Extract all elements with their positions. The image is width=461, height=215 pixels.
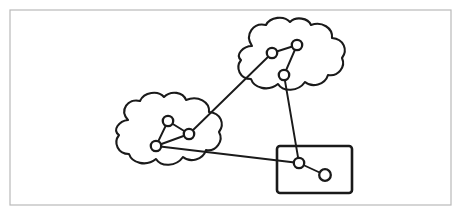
node-t3[interactable] (279, 70, 289, 80)
node-t2[interactable] (292, 40, 302, 50)
network-diagram (0, 0, 461, 215)
node-t1[interactable] (267, 48, 277, 58)
node-b2[interactable] (319, 169, 331, 181)
node-b1[interactable] (294, 158, 304, 168)
node-l1[interactable] (163, 116, 173, 126)
diagram-canvas (0, 0, 461, 215)
outer-border (10, 10, 451, 205)
node-l3[interactable] (151, 141, 161, 151)
node-l2[interactable] (184, 129, 194, 139)
